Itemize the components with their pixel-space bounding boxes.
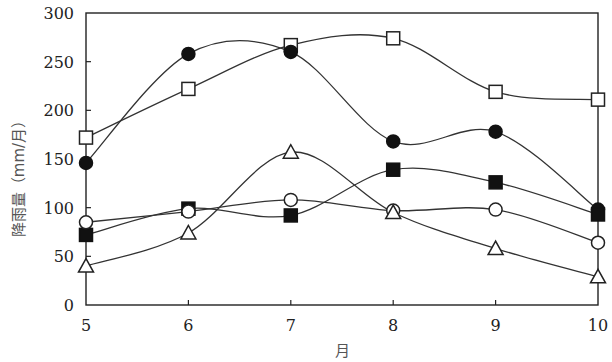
plot-frame (86, 13, 598, 305)
open-square-marker (592, 93, 605, 106)
series-line-open-circle (86, 200, 598, 243)
x-axis-title: 月 (335, 342, 350, 360)
x-tick-label: 7 (286, 316, 296, 335)
filled-square-marker (387, 163, 400, 176)
filled-square-marker (80, 228, 93, 241)
filled-circle-marker (80, 156, 93, 169)
series-markers (79, 32, 606, 283)
x-tick-label: 8 (388, 316, 398, 335)
open-square-marker (387, 32, 400, 45)
open-circle-marker (80, 216, 93, 229)
y-tick-label: 300 (43, 4, 74, 23)
filled-square-marker (592, 208, 605, 221)
filled-circle-marker (489, 125, 502, 138)
y-tick-label: 50 (54, 247, 74, 266)
y-tick-label: 100 (43, 199, 74, 218)
y-tick-label: 250 (43, 53, 74, 72)
open-circle-marker (592, 236, 605, 249)
series-line-filled-square (86, 168, 598, 235)
filled-square-marker (284, 209, 297, 222)
x-tick-label: 5 (81, 316, 91, 335)
rainfall-line-chart: 050100150200250300 5678910 降雨量（mm/月） 月 (0, 0, 612, 362)
series-lines (86, 35, 598, 277)
y-tick-label: 0 (64, 296, 74, 315)
x-tick-label: 6 (183, 316, 193, 335)
filled-circle-marker (182, 47, 195, 60)
filled-circle-marker (284, 45, 297, 58)
open-circle-marker (489, 203, 502, 216)
open-square-marker (182, 82, 195, 95)
series-line-filled-circle (86, 40, 598, 209)
open-triangle-marker (488, 241, 503, 255)
open-square-marker (80, 131, 93, 144)
open-square-marker (489, 85, 502, 98)
filled-circle-marker (387, 135, 400, 148)
filled-square-marker (489, 176, 502, 189)
open-triangle-marker (181, 225, 196, 239)
open-circle-marker (182, 205, 195, 218)
y-axis-title: 降雨量（mm/月） (10, 113, 28, 237)
x-tick-label: 9 (491, 316, 501, 335)
plot-border (86, 13, 598, 305)
open-circle-marker (284, 193, 297, 206)
open-triangle-marker (79, 259, 94, 273)
series-line-open-square (86, 35, 598, 138)
y-tick-label: 200 (43, 101, 74, 120)
y-tick-label: 150 (43, 150, 74, 169)
x-tick-label: 10 (588, 316, 608, 335)
